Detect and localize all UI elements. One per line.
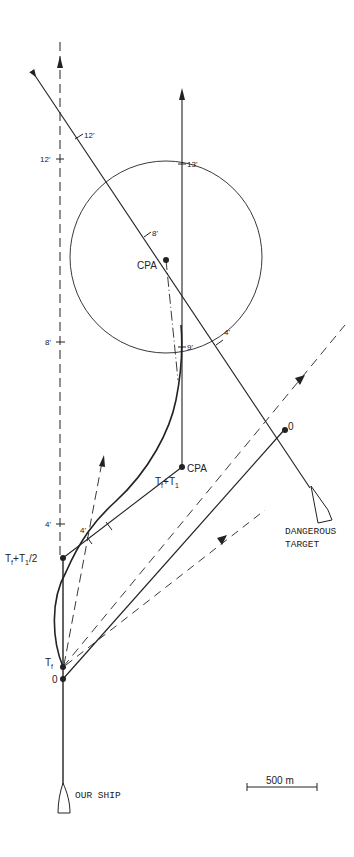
own-tick-4-label: 4': [45, 520, 51, 529]
lower-dashed-arrow-icon: [217, 535, 227, 545]
target-label-line1: DANGEROUS: [285, 526, 337, 537]
half-point: [60, 555, 66, 561]
own-to-target-line: [63, 429, 285, 679]
relative-tick-13-label: 13': [187, 160, 198, 169]
tf-label: Tf: [45, 657, 53, 670]
half-point-label: Tf+T1/2: [5, 553, 38, 566]
target-tick-8-label: 8': [152, 229, 158, 238]
own-tick-12-label: 12': [40, 155, 51, 164]
cpa-dash-dot-line: [166, 260, 178, 380]
relative-vertical-arrow-icon: [179, 88, 185, 100]
lower-cpa-point: [179, 464, 185, 470]
own-ship-icon: [58, 783, 70, 813]
target-tick-12-label: 12': [84, 131, 95, 140]
tf-point: [60, 664, 66, 670]
scale-bar-label: 500 m: [266, 775, 294, 786]
own-origin-label: 0: [52, 674, 58, 685]
own-ship-label: OUR SHIP: [75, 790, 121, 801]
target-ship-icon: [311, 486, 332, 523]
target-tick-4: [216, 340, 223, 345]
target-label-line2: TARGET: [285, 539, 320, 550]
upper-cpa-point: [163, 257, 169, 263]
target-tick-4-label: 4': [224, 328, 230, 337]
own-origin-point: [60, 676, 66, 682]
manoeuvre-tick-label: 4': [80, 526, 86, 535]
tf-plus-t1-label: Tf+T1: [155, 476, 179, 489]
upper-cpa-label: CPA: [137, 260, 157, 271]
target-tick-8: [144, 232, 151, 237]
own-course-arrow-icon: [57, 56, 63, 68]
relative-tick-9-label: 9': [187, 343, 193, 352]
own-tick-8-label: 8': [45, 338, 51, 347]
relative-motion-diagram: 12' 8' 4' 12' 8' 4' 13' 9' 4' CPA CPA Tf…: [0, 0, 354, 857]
target-track: [34, 74, 310, 488]
new-heading-arrow-icon: [99, 455, 105, 467]
lower-cpa-label: CPA: [187, 463, 207, 474]
target-origin-label: 0: [288, 421, 294, 432]
